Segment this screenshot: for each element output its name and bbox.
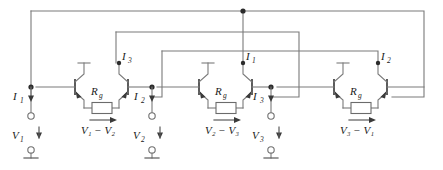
port-2-group: I 2 V 2 [133,84,163,158]
cell-1-resistor-subscript: g [99,91,103,100]
cell-1-collector-current-label: I [121,50,127,62]
port-1-terminal-top [28,113,34,119]
cell-1-current-arrow-head [110,117,117,123]
port-1-group: I 1 V 1 [12,84,42,158]
port-2-voltage-label: V [133,129,141,141]
port-3-voltage-label: V [252,129,260,141]
cell-2-voltage-label: V₂ − V₃ [205,124,239,136]
cell-2-collector-current-label: I [245,50,251,62]
port-2-terminal-top [149,113,155,119]
cell-3-collector-junction-dot [376,61,380,65]
cell-3-voltage-label: V₃ − V₁ [340,124,374,136]
port-3-current-subscript: 3 [259,96,264,105]
junction-dot-top [240,8,245,13]
cell-3-current-arrow-head [369,117,376,123]
cell-2-resistor-label: R [214,85,222,97]
cell-1-voltage-label: V₁ − V₂ [81,124,115,136]
cell-3-left-transistor-collector [334,63,343,82]
cell-3-collector-current-subscript: 2 [387,56,391,65]
port-3-current-label: I [252,90,258,102]
cell-2-right-transistor-collector [243,63,252,82]
cell-2-resistor-body [216,103,236,114]
cell-3-resistor-body [351,103,371,114]
port-3-voltage-subscript: 3 [259,135,264,144]
feedback-bus-wires [31,8,424,97]
port-1-voltage-label: V [12,129,20,141]
port-3-terminal-top [268,113,274,119]
port-1-current-subscript: 1 [20,96,24,105]
port-2-current-subscript: 2 [141,96,145,105]
bus-inner-left-leg [152,51,162,97]
cell-1-left-transistor-collector [75,63,84,82]
cell-2-left-transistor-collector [199,63,208,82]
port-1-current-arrow [28,96,34,103]
port-2-voltage-subscript: 2 [141,135,145,144]
cell-3-resistor-label: R [349,85,357,97]
cell-2-collector-junction-dot [241,61,245,65]
bus-inner [162,51,378,63]
cell-3-collector-current-label: I [380,50,386,62]
port-1-terminal-bottom [28,147,34,153]
cell-1-right-transistor-collector [119,63,128,82]
cell-1-resistor-label: R [90,85,98,97]
cell-3-right-transistor-collector [378,63,387,82]
circuit-figure: R g V₁ − V₂ I 3 R g [0,0,443,170]
port-2-terminal-bottom [149,147,155,153]
port-1-voltage-subscript: 1 [20,135,24,144]
cell-1-collector-current-subscript: 3 [127,56,132,65]
circuit-schematic-svg: R g V₁ − V₂ I 3 R g [0,0,443,170]
port-3-current-arrow [268,96,274,103]
cell-1-resistor-body [92,103,112,114]
cell-2-resistor-subscript: g [223,91,227,100]
cell-1-collector-junction-dot [117,61,121,65]
port-1-current-label: I [12,90,18,102]
port-2-current-arrow [149,96,155,103]
cell-3-resistor-subscript: g [358,91,362,100]
port-2-current-label: I [133,90,139,102]
bus-outer [31,11,424,97]
cell-2-collector-current-subscript: 1 [252,56,256,65]
port-3-group: I 3 V 3 [252,84,282,158]
cell-2-current-arrow-head [234,117,241,123]
port-3-terminal-bottom [268,147,274,153]
